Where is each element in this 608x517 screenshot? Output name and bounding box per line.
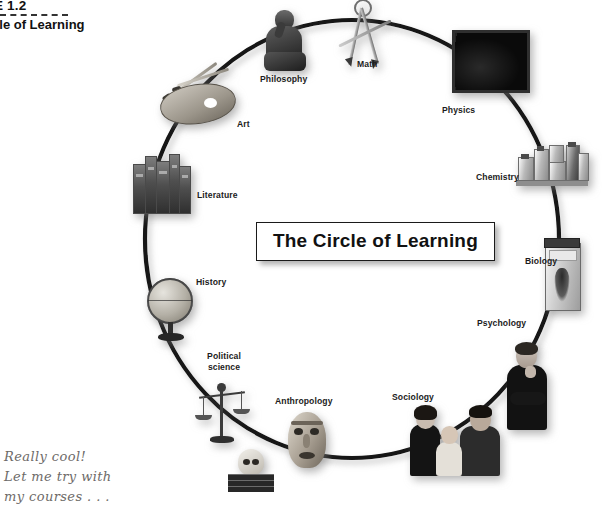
person-thinking-icon bbox=[500, 344, 554, 430]
node-label-history: History bbox=[196, 277, 226, 288]
center-banner-text: The Circle of Learning bbox=[273, 230, 478, 251]
node-label-sociology: Sociology bbox=[392, 392, 434, 403]
thinker-statue-icon bbox=[262, 10, 310, 72]
node-label-art: Art bbox=[237, 119, 250, 130]
node-label-anthropology: Anthropology bbox=[275, 396, 333, 407]
tribal-mask-icon bbox=[288, 412, 326, 468]
node-label-psychology: Psychology bbox=[477, 318, 526, 329]
books-icon bbox=[133, 152, 189, 214]
handwritten-annotation: Really cool! Let me try with my courses … bbox=[4, 447, 154, 507]
center-banner: The Circle of Learning bbox=[256, 222, 495, 261]
annotation-line-3: my courses . . . bbox=[4, 487, 154, 507]
figure-page: URE 1.2 Circle of Learning The Circle of… bbox=[0, 0, 608, 517]
node-label-math: Math bbox=[357, 59, 377, 70]
node-label-biology: Biology bbox=[525, 256, 557, 267]
skull-icon bbox=[238, 449, 264, 475]
balance-scales-icon bbox=[195, 382, 249, 446]
node-label-physics: Physics bbox=[442, 105, 475, 116]
node-label-literature: Literature bbox=[197, 190, 238, 201]
book-stack-icon bbox=[228, 474, 274, 492]
chemistry-bottles-icon bbox=[516, 128, 588, 186]
node-label-political-science: Political science bbox=[200, 351, 248, 372]
political-science-line-1: Political bbox=[207, 351, 241, 361]
family-photo-icon bbox=[410, 404, 502, 476]
chalkboard-icon bbox=[452, 30, 530, 93]
globe-icon bbox=[145, 276, 197, 342]
political-science-line-2: science bbox=[208, 362, 240, 372]
node-label-chemistry: Chemistry bbox=[476, 172, 519, 183]
palette-brushes-icon bbox=[160, 68, 246, 124]
specimen-jar-icon bbox=[545, 243, 581, 311]
annotation-line-1: Really cool! bbox=[4, 447, 154, 467]
node-label-philosophy: Philosophy bbox=[260, 74, 307, 85]
annotation-line-2: Let me try with bbox=[4, 467, 154, 487]
